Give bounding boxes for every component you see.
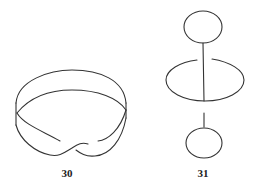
figure-label-30: 30 — [62, 167, 73, 179]
linked-loops-figure — [166, 11, 244, 158]
upper-connector — [203, 43, 204, 101]
top-loop — [184, 11, 222, 43]
figure-label-31: 31 — [198, 167, 209, 179]
diagram-canvas — [0, 0, 256, 189]
mobius-strip-figure — [16, 70, 126, 156]
bottom-loop — [186, 128, 222, 158]
central-ellipse — [166, 59, 244, 101]
